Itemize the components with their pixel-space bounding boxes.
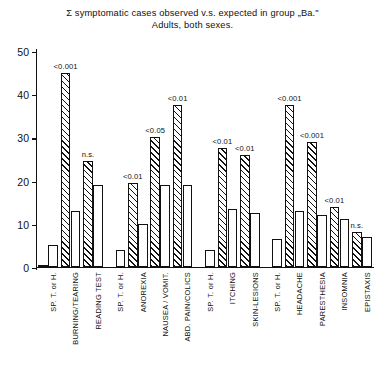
x-axis-category-label: BURNING/TEARING xyxy=(71,272,80,366)
bar-expected xyxy=(205,250,215,267)
significance-label: <0.05 xyxy=(145,126,165,135)
y-axis-tick-label: 20 xyxy=(17,176,29,187)
significance-label: n.s. xyxy=(82,150,95,159)
significance-label: n.s. xyxy=(350,221,363,230)
bar-observed xyxy=(128,183,138,267)
x-axis-category-label: INSOMNIA xyxy=(340,272,349,366)
bar-observed xyxy=(218,148,228,267)
bar-expected xyxy=(340,219,350,267)
x-axis-category-label: SP. T. or H. xyxy=(116,272,125,366)
x-axis-category-label: ITCHING xyxy=(228,272,237,366)
x-axis-category-label: EPISTAXIS xyxy=(363,272,372,366)
x-axis-category-label: SKIN-LESIONS xyxy=(251,272,260,366)
bar-expected xyxy=(317,215,327,267)
y-axis-tick-label: 40 xyxy=(17,90,29,101)
bar-observed xyxy=(352,232,362,267)
significance-label: <0.01 xyxy=(213,137,233,146)
x-axis-category-label: HEADACHE xyxy=(295,272,304,366)
bar-expected xyxy=(138,224,148,267)
significance-label: <0.001 xyxy=(300,131,324,140)
bar-expected xyxy=(160,185,170,267)
bar-expected xyxy=(272,239,282,267)
bar-observed xyxy=(330,207,340,267)
bar-expected xyxy=(250,213,260,267)
bar-expected xyxy=(295,211,305,267)
x-axis-category-label: PARESTHESIA xyxy=(318,272,327,366)
y-axis-tick-label: 50 xyxy=(17,47,29,58)
bar-expected xyxy=(183,185,193,267)
bar-expected xyxy=(48,245,58,267)
chart-title: Σ symptomatic cases observed v.s. expect… xyxy=(0,8,385,18)
x-axis-category-label: SP. T. or H. xyxy=(273,272,282,366)
bar-observed xyxy=(150,137,160,267)
bar-observed xyxy=(307,142,317,267)
x-axis-category-label: SP. T. or H. xyxy=(206,272,215,366)
chart-subtitle: Adults, both sexes. xyxy=(0,20,385,30)
bar-observed xyxy=(173,105,183,267)
bar-expected xyxy=(116,250,126,267)
x-axis-category-label: ANOREXIA xyxy=(139,272,148,366)
bar-observed xyxy=(38,265,48,267)
x-axis-category-label: READING TEST xyxy=(94,272,103,366)
significance-label: <0.01 xyxy=(168,94,188,103)
y-axis-tick-label: 30 xyxy=(17,133,29,144)
bar-observed xyxy=(61,73,71,267)
chart-figure: Σ symptomatic cases observed v.s. expect… xyxy=(0,0,385,370)
x-axis-category-label: ABD. PAIN/COLICS xyxy=(183,272,192,366)
bar-expected xyxy=(228,209,238,267)
chart-title-block: Σ symptomatic cases observed v.s. expect… xyxy=(0,8,385,30)
significance-label: <0.01 xyxy=(123,172,143,181)
plot-area: 01020304050 <0.001n.s.<0.01<0.05<0.01<0.… xyxy=(36,51,372,268)
bar-expected xyxy=(71,211,81,267)
x-axis-category-label: SP. T. or H. xyxy=(49,272,58,366)
significance-label: <0.01 xyxy=(325,196,345,205)
bar-observed xyxy=(240,155,250,267)
x-axis-category-labels: SP. T. or H.BURNING/TEARINGREADING TESTS… xyxy=(36,272,374,368)
significance-label: <0.001 xyxy=(54,62,78,71)
bar-expected xyxy=(362,237,372,267)
y-axis-tick xyxy=(32,268,37,269)
significance-label: <0.001 xyxy=(278,94,302,103)
bar-expected xyxy=(93,185,103,267)
bar-observed xyxy=(83,161,93,267)
significance-label: <0.01 xyxy=(235,144,255,153)
y-axis-tick-label: 0 xyxy=(23,263,29,274)
bar-observed xyxy=(285,105,295,267)
x-axis-category-label: NAUSEA / VOMIT. xyxy=(161,272,170,366)
y-axis-tick-label: 10 xyxy=(17,220,29,231)
